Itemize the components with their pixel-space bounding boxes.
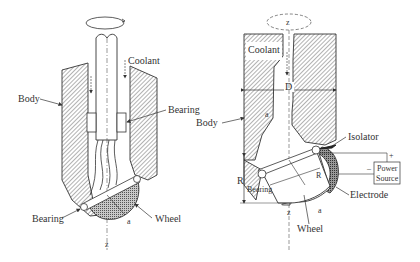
label-plus: + bbox=[389, 151, 394, 160]
bearing-top-left bbox=[87, 113, 96, 132]
body-right bbox=[130, 66, 157, 180]
label-wheel-right: Wheel bbox=[297, 223, 323, 234]
label-electrode: Electrode bbox=[350, 189, 389, 200]
label-body-right: Body bbox=[196, 117, 218, 128]
label-coolant: Coolant bbox=[128, 55, 160, 66]
label-body: Body bbox=[18, 93, 40, 104]
right-body-right bbox=[292, 34, 336, 145]
label-a-bottom: a bbox=[318, 206, 322, 215]
label-R-left: R bbox=[237, 175, 244, 186]
label-wheel: Wheel bbox=[155, 213, 181, 224]
rotation-arrow-icon bbox=[86, 17, 124, 29]
label-a: a bbox=[127, 217, 131, 226]
label-power: Power bbox=[377, 164, 398, 173]
label-bearing-bottom: Bearing bbox=[32, 213, 64, 224]
label-minus: – bbox=[366, 164, 372, 173]
label-R-inner: R bbox=[316, 171, 322, 180]
label-coolant-right: Coolant bbox=[248, 44, 280, 55]
label-D: D bbox=[285, 81, 292, 92]
label-a-top: a bbox=[265, 110, 269, 119]
label-bearing-top: Bearing bbox=[168, 104, 200, 115]
label-z-top: z bbox=[286, 18, 290, 27]
label-isolator: Isolator bbox=[348, 131, 379, 142]
label-z-bottom: z bbox=[287, 208, 291, 217]
body-left bbox=[62, 63, 100, 216]
shaft bbox=[96, 34, 117, 140]
label-bearing-right: Bearing bbox=[247, 185, 272, 194]
right-diagram: z Coolant D Body a R R Be bbox=[196, 14, 400, 250]
bearing-top-right bbox=[117, 113, 126, 132]
diagram-canvas: Coolant Body Bearing Bearing Wheel a z z… bbox=[0, 0, 420, 262]
left-diagram: Coolant Body Bearing Bearing Wheel a z bbox=[18, 17, 200, 250]
label-z: z bbox=[105, 240, 109, 249]
label-source: Source bbox=[376, 174, 399, 183]
